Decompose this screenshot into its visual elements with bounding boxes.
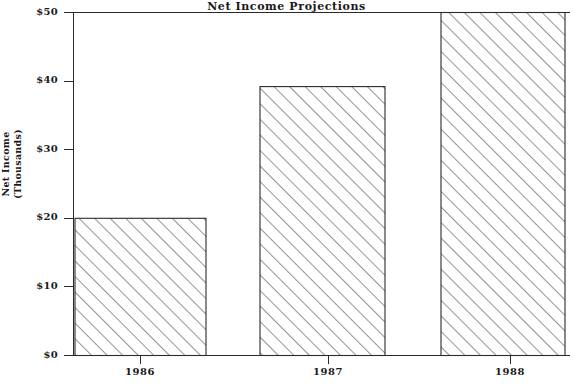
bar-1988 (441, 13, 565, 356)
bar-1987 (260, 87, 385, 356)
chart-container: Net Income Projections Net Income (Thous… (0, 0, 573, 385)
plot-area (0, 0, 573, 385)
bar-1986 (75, 218, 206, 355)
